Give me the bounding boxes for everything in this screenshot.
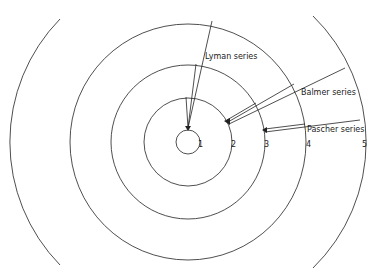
balmer-label: Balmer series xyxy=(301,89,356,97)
lyman-label: Lyman series xyxy=(205,53,257,61)
orbit-label-3: 3 xyxy=(264,141,269,149)
orbit-5-right-arc xyxy=(313,16,366,268)
balmer-line-3 xyxy=(227,103,256,120)
orbit-label-4: 4 xyxy=(306,141,311,149)
paschen-line-4 xyxy=(265,124,305,129)
orbit-label-2: 2 xyxy=(231,141,236,149)
orbit-1 xyxy=(176,130,200,154)
orbit-3 xyxy=(111,65,265,219)
balmer-arrowhead xyxy=(224,118,230,125)
orbit-4 xyxy=(70,24,306,260)
paschen-label: Pascher series xyxy=(307,126,364,134)
orbit-2 xyxy=(144,98,232,186)
orbit-label-1: 1 xyxy=(198,141,203,149)
orbit-5-left-arc xyxy=(10,19,60,265)
lyman-line-2 xyxy=(186,97,188,128)
lyman-line-4 xyxy=(188,21,212,128)
orbit-diagram xyxy=(0,0,376,278)
orbit-label-5: 5 xyxy=(362,141,367,149)
